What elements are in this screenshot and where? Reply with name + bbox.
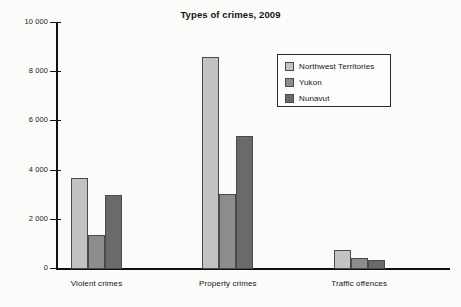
legend-swatch-icon: [285, 62, 294, 71]
legend-label: Yukon: [299, 78, 322, 87]
legend-swatch-icon: [285, 94, 294, 103]
bar: [236, 136, 253, 269]
y-tick-label: 6 000: [0, 115, 48, 124]
y-tick-label: 8 000: [0, 66, 48, 75]
y-tick-label: 10 000: [0, 17, 48, 26]
legend-item: Northwest Territories: [285, 59, 390, 74]
bar: [88, 235, 105, 269]
bar: [334, 250, 351, 269]
bar: [71, 178, 88, 269]
legend-item: Nunavut: [285, 91, 390, 106]
y-tick-label: 0: [0, 263, 48, 272]
legend-item: Yukon: [285, 75, 390, 90]
bar-chart: Types of crimes, 2009 02 0004 0006 0008 …: [0, 0, 461, 307]
bar: [219, 194, 236, 269]
bar: [105, 195, 122, 269]
x-axis-label-0: Violent crimes: [47, 279, 147, 288]
bar: [368, 260, 385, 269]
chart-legend: Northwest TerritoriesYukonNunavut: [277, 54, 391, 107]
y-tick-label: 4 000: [0, 165, 48, 174]
legend-label: Nunavut: [299, 94, 330, 103]
legend-swatch-icon: [285, 78, 294, 87]
bar: [202, 57, 219, 269]
chart-title: Types of crimes, 2009: [0, 9, 461, 20]
x-axis-label-1: Property crimes: [178, 279, 278, 288]
legend-label: Northwest Territories: [299, 62, 374, 71]
x-axis-label-2: Traffic offences: [309, 279, 409, 288]
y-tick-label: 2 000: [0, 214, 48, 223]
bar: [351, 258, 368, 269]
